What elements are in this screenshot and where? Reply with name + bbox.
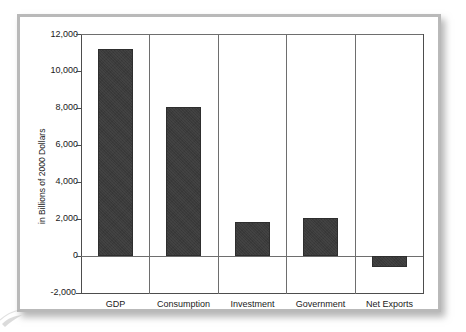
bar-consumption — [166, 107, 201, 256]
y-tick-label-8000: 8,000 — [40, 103, 78, 112]
category-separator-4 — [355, 34, 356, 294]
x-tick-label-investment: Investment — [218, 300, 287, 309]
plot-left-spine — [81, 34, 82, 294]
category-separator-3 — [286, 34, 287, 294]
bar-government — [303, 218, 338, 256]
bar-investment — [235, 222, 270, 256]
x-tick-label-gdp: GDP — [81, 300, 150, 309]
category-separator-1 — [149, 34, 150, 294]
bar-net-exports — [372, 256, 407, 267]
y-tick-label-10000: 10,000 — [40, 66, 78, 75]
category-separator-2 — [218, 34, 219, 294]
y-tick-label-2000: 2,000 — [40, 214, 78, 223]
x-tick-label-net-exports: Net Exports — [355, 300, 424, 309]
y-tick-label-minus2000: -2,000 — [38, 288, 76, 297]
gridline-12000 — [81, 34, 424, 35]
x-tick-label-consumption: Consumption — [149, 300, 218, 309]
y-tick-label-6000: 6,000 — [40, 140, 78, 149]
y-tick-label-0: 0 — [40, 251, 78, 260]
bar-gdp — [98, 49, 133, 256]
plot-right-spine — [423, 34, 424, 294]
x-tick-label-government: Government — [286, 300, 355, 309]
bar-chart-figure: in Billions of 2000 Dollars 12,000 10,00… — [0, 0, 466, 332]
y-tick-label-4000: 4,000 — [40, 177, 78, 186]
y-tick-label-12000: 12,000 — [40, 30, 78, 39]
plot-bottom-axis — [81, 293, 424, 294]
